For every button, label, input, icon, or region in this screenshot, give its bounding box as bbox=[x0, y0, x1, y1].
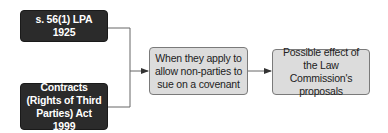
result-box-label: Possible effect of the Law Commission's … bbox=[273, 46, 369, 98]
middle-box-non-parties: When they apply to allow non-parties to … bbox=[149, 47, 248, 95]
middle-box-label: When they apply to allow non-parties to … bbox=[150, 52, 247, 91]
result-box-law-commission: Possible effect of the Law Commission's … bbox=[272, 49, 370, 95]
source-box-contracts-act-1999: Contracts (Rights of Third Parties) Act … bbox=[20, 83, 108, 130]
source-box-label: s. 56(1) LPA 1925 bbox=[21, 13, 107, 39]
source-box-label: Contracts (Rights of Third Parties) Act … bbox=[21, 81, 107, 133]
source-box-lpa-1925: s. 56(1) LPA 1925 bbox=[20, 10, 108, 42]
